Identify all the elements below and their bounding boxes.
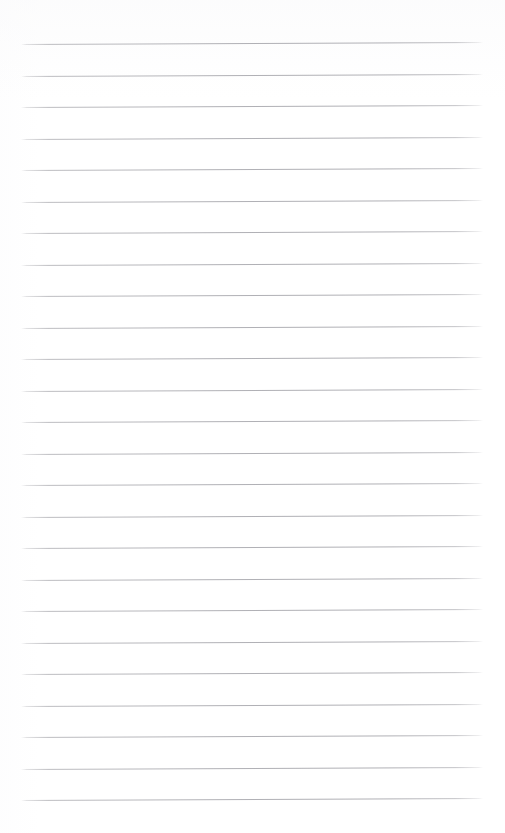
rule-line: [21, 294, 483, 297]
rule-line: [21, 325, 483, 328]
paper-texture-overlay: [0, 0, 505, 833]
rule-line: [21, 262, 483, 265]
rule-line: [21, 672, 483, 675]
rule-line: [21, 136, 483, 139]
rule-line: [21, 640, 483, 643]
rule-line: [21, 357, 483, 360]
rule-line: [21, 199, 483, 202]
rule-line: [21, 388, 483, 391]
rule-line: [21, 609, 483, 612]
rule-line: [21, 231, 483, 234]
rule-line: [21, 451, 483, 454]
rule-line: [21, 546, 483, 549]
rule-line: [21, 42, 483, 45]
rule-line: [21, 703, 483, 706]
rule-line: [21, 105, 483, 108]
rule-line: [21, 735, 483, 738]
rule-line: [21, 483, 483, 486]
rule-line: [21, 577, 483, 580]
rule-line: [21, 514, 483, 517]
rule-line: [21, 420, 483, 423]
rule-line: [21, 168, 483, 171]
rule-line: [21, 73, 483, 76]
lined-paper-page: [0, 0, 505, 833]
rule-line: [21, 798, 483, 801]
rule-line: [21, 766, 483, 769]
